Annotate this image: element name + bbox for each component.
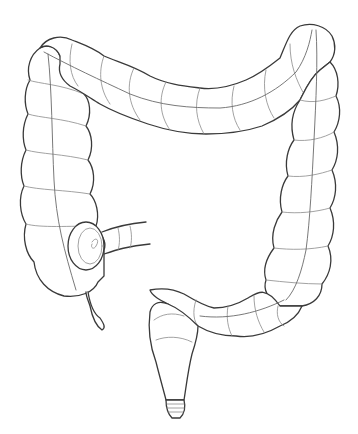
colon-illustration	[0, 0, 358, 434]
appendix	[86, 292, 104, 330]
ileocecal-junction	[68, 222, 150, 270]
anal-canal	[166, 400, 185, 418]
